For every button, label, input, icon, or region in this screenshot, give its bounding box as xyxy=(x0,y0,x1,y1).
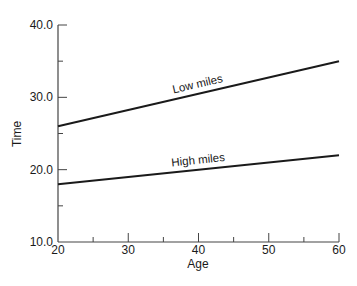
x-tick-label: 60 xyxy=(332,243,346,257)
series-line-low-miles xyxy=(58,61,339,126)
axes xyxy=(58,25,339,242)
y-tick-label: 20.0 xyxy=(30,163,54,177)
y-axis-title: Time xyxy=(10,121,24,148)
x-tick-label: 30 xyxy=(122,243,136,257)
series-label-low-miles: Low miles xyxy=(171,72,224,95)
y-tick-label: 10.0 xyxy=(30,235,54,249)
x-tick-label: 40 xyxy=(192,243,206,257)
ticks xyxy=(58,25,339,242)
x-tick-label: 20 xyxy=(51,243,65,257)
line-chart: 10.020.030.040.02030405060 Low milesHigh… xyxy=(0,0,357,286)
tick-labels: 10.020.030.040.02030405060 xyxy=(30,18,346,257)
y-tick-label: 30.0 xyxy=(30,90,54,104)
series-labels: Low milesHigh miles xyxy=(171,72,226,168)
y-tick-label: 40.0 xyxy=(30,18,54,32)
x-axis-title: Age xyxy=(187,257,209,271)
x-tick-label: 50 xyxy=(262,243,276,257)
series-label-high-miles: High miles xyxy=(171,151,226,168)
